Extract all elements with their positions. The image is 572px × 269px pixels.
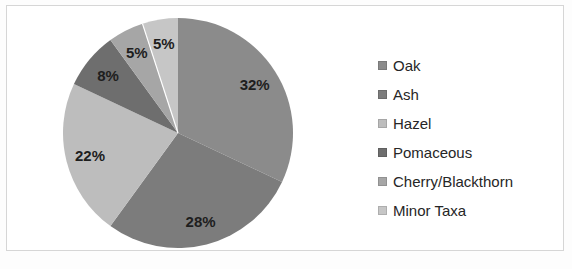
data-label-oak: 32%: [240, 76, 270, 93]
pie-chart: 32%28%22%8%5%5%: [58, 13, 298, 253]
legend-label: Pomaceous: [393, 144, 472, 161]
legend-item-ash: Ash: [378, 80, 513, 109]
chart-legend: OakAshHazelPomaceousCherry/BlackthornMin…: [378, 51, 513, 225]
legend-swatch-icon: [378, 206, 387, 215]
data-label-ash: 28%: [186, 213, 216, 230]
legend-label: Minor Taxa: [393, 202, 466, 219]
data-label-pomaceous: 8%: [97, 67, 119, 84]
legend-label: Cherry/Blackthorn: [393, 173, 513, 190]
legend-swatch-icon: [378, 61, 387, 70]
legend-swatch-icon: [378, 148, 387, 157]
legend-swatch-icon: [378, 90, 387, 99]
scanned-chart-figure: 32%28%22%8%5%5% OakAshHazelPomaceousCher…: [0, 0, 572, 269]
legend-label: Hazel: [393, 115, 431, 132]
data-label-cherry-blackthorn: 5%: [126, 44, 148, 61]
legend-label: Ash: [393, 86, 419, 103]
legend-label: Oak: [393, 57, 421, 74]
legend-swatch-icon: [378, 177, 387, 186]
legend-item-cherry-blackthorn: Cherry/Blackthorn: [378, 167, 513, 196]
legend-swatch-icon: [378, 119, 387, 128]
legend-item-pomaceous: Pomaceous: [378, 138, 513, 167]
chart-frame: 32%28%22%8%5%5% OakAshHazelPomaceousCher…: [6, 5, 564, 251]
data-label-minor-taxa: 5%: [153, 35, 175, 52]
legend-item-minor-taxa: Minor Taxa: [378, 196, 513, 225]
legend-item-hazel: Hazel: [378, 109, 513, 138]
data-label-hazel: 22%: [75, 147, 105, 164]
legend-item-oak: Oak: [378, 51, 513, 80]
